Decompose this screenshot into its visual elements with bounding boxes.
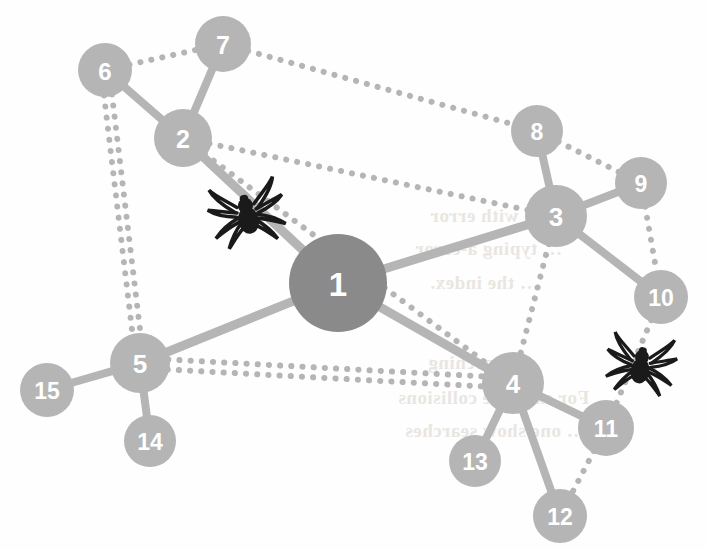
node-label-10: 10 <box>648 285 674 311</box>
node-5[interactable]: 5 <box>110 333 170 393</box>
edge-4-12-solid <box>523 410 552 492</box>
node-3[interactable]: 3 <box>525 185 587 247</box>
node-label-11: 11 <box>594 416 619 442</box>
edge-2-6-solid <box>124 86 163 120</box>
edge-9-10-dotted <box>645 207 657 273</box>
node-4[interactable]: 4 <box>482 352 544 414</box>
node-label-9: 9 <box>635 171 648 197</box>
node-label-4: 4 <box>506 369 521 399</box>
network-graph-figure: … … with error… typing a-error… the inde… <box>0 0 707 549</box>
node-2[interactable]: 2 <box>154 109 212 167</box>
edge-3-10-solid <box>579 234 641 282</box>
node-label-8: 8 <box>531 119 544 145</box>
edge-5-4-dotted <box>168 360 484 377</box>
edge-3-4-dotted <box>520 244 549 355</box>
edge-11-12-dotted <box>572 451 594 494</box>
edge-1-3-solid <box>383 225 528 270</box>
edge-7-8-dotted <box>248 51 514 125</box>
node-label-5: 5 <box>133 349 147 379</box>
node-13[interactable]: 13 <box>449 435 501 487</box>
node-label-6: 6 <box>98 58 111 85</box>
edge-3-8-solid <box>542 154 549 187</box>
edge-5-14-solid <box>144 391 147 417</box>
node-6[interactable]: 6 <box>78 43 132 97</box>
edge-6-7-dotted <box>129 50 197 65</box>
edge-4-13-solid <box>486 409 501 439</box>
node-10[interactable]: 10 <box>634 270 688 324</box>
node-15[interactable]: 15 <box>20 363 74 417</box>
node-label-15: 15 <box>34 378 60 404</box>
node-7[interactable]: 7 <box>195 16 251 72</box>
node-label-7: 7 <box>216 31 230 59</box>
node-11[interactable]: 11 <box>578 400 634 456</box>
node-label-13: 13 <box>462 449 488 475</box>
edge-1-4-solid <box>379 306 488 368</box>
nodes-layer: 123456789101112131415 <box>20 16 688 543</box>
edge-4-11-solid <box>539 396 582 417</box>
edge-6-5-dotted <box>112 94 141 334</box>
edge-3-9-solid <box>583 192 619 206</box>
spider-leg-6 <box>650 355 677 371</box>
spider-leg-3 <box>606 362 632 379</box>
node-8[interactable]: 8 <box>511 105 563 157</box>
edge-1-5-solid <box>166 301 294 353</box>
node-label-12: 12 <box>547 504 573 530</box>
node-12[interactable]: 12 <box>533 489 587 543</box>
edge-5-15-solid <box>71 371 113 383</box>
node-label-14: 14 <box>137 429 163 455</box>
node-label-2: 2 <box>176 125 190 153</box>
node-9[interactable]: 9 <box>615 157 667 209</box>
node-1[interactable]: 1 <box>289 234 387 332</box>
edge-2-7-solid <box>194 68 213 113</box>
edge-8-9-dotted <box>558 142 619 173</box>
node-14[interactable]: 14 <box>124 415 176 467</box>
node-label-3: 3 <box>549 202 563 232</box>
network-graph-canvas: 123456789101112131415 <box>0 0 707 549</box>
node-label-1: 1 <box>329 266 347 303</box>
